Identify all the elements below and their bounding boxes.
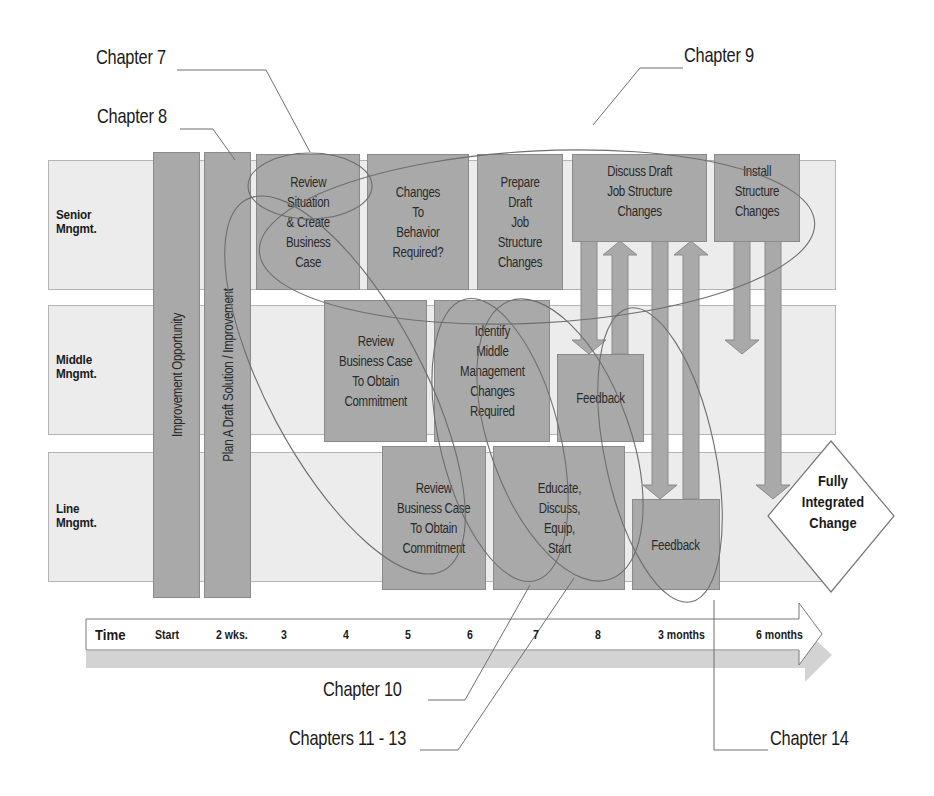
chapter7-ellipse: [248, 153, 372, 219]
chapter14-ellipse: [575, 297, 745, 613]
timeline-tick-3: 3: [281, 628, 287, 642]
timeline-tick-start: Start: [155, 628, 179, 642]
timeline-tick-6months: 6 months: [756, 628, 803, 642]
chapter9-ellipse: [255, 137, 819, 338]
chapter10-label: Chapter 10: [323, 677, 402, 701]
chapter7-leader: [177, 70, 310, 152]
chapter8-label: Chapter 8: [97, 104, 167, 128]
chapter10-ellipse: [407, 285, 594, 595]
timeline-tick-3months: 3 months: [658, 628, 705, 642]
fully-integrated-change-label: Fully Integrated Change: [781, 470, 884, 533]
chapter9-label: Chapter 9: [684, 43, 754, 67]
timeline-tick-7: 7: [533, 628, 539, 642]
timeline-tick-5: 5: [405, 628, 411, 642]
chapter8-leader: [180, 129, 235, 160]
timeline-tick-2wks: 2 wks.: [216, 628, 248, 642]
chapter9-leader: [593, 68, 683, 125]
timeline-tick-8: 8: [595, 628, 601, 642]
process-diagram: Senior Mngmt. Middle Mngmt. Line Mngmt. …: [0, 0, 934, 796]
timeline-title: Time: [95, 626, 126, 643]
chapter7-label: Chapter 7: [96, 45, 166, 69]
timeline-tick-6: 6: [467, 628, 473, 642]
chapters11-13-label: Chapters 11 - 13: [289, 726, 406, 750]
chapter8-ellipse: [178, 163, 513, 607]
timeline-tick-4: 4: [343, 628, 349, 642]
chapter14-label: Chapter 14: [770, 726, 849, 750]
